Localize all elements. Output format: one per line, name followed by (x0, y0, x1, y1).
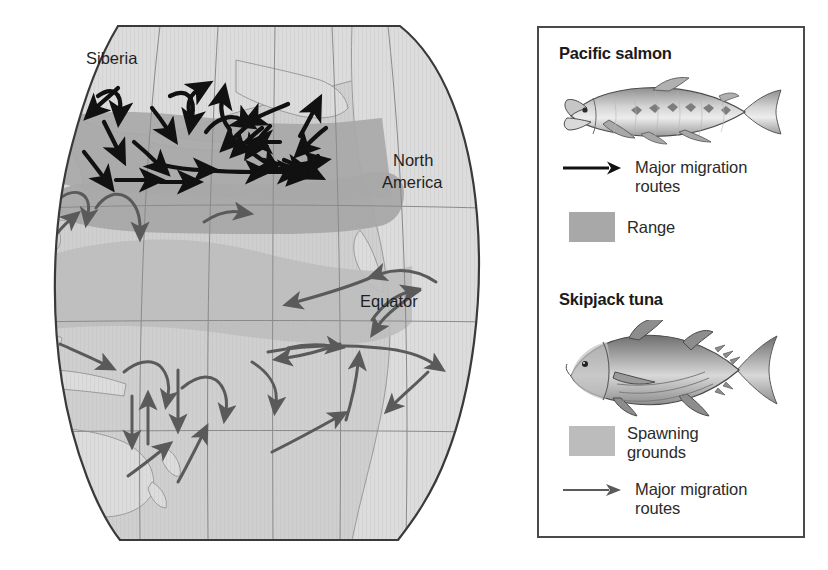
pacific-migration-map: Siberia North America Equator (0, 0, 530, 570)
legend-entry-salmon-routes: Major migration routes (561, 158, 747, 196)
legend-label-tuna-routes-l1: Major migration (635, 480, 747, 499)
label-north: North (393, 151, 433, 169)
legend-label-salmon-range: Range (627, 218, 675, 237)
skipjack-tuna-illustration (559, 320, 789, 420)
legend-label-tuna-routes: Major migration routes (635, 480, 747, 518)
legend-title-skipjack-tuna: Skipjack tuna (559, 290, 663, 309)
label-siberia: Siberia (86, 49, 138, 67)
legend-label-tuna-routes-l2: routes (635, 499, 747, 518)
label-equator: Equator (360, 292, 418, 310)
legend-label-tuna-spawning-l2: grounds (627, 443, 699, 462)
legend-entry-tuna-spawning: Spawning grounds (569, 424, 699, 462)
legend-label-salmon-routes-l1: Major migration (635, 158, 747, 177)
legend-label-salmon-routes: Major migration routes (635, 158, 747, 196)
legend-label-tuna-spawning: Spawning grounds (627, 424, 699, 462)
salmon-range-swatch (569, 212, 615, 242)
legend-panel: Pacific salmon (537, 26, 805, 538)
legend-label-tuna-spawning-l1: Spawning (627, 424, 699, 443)
tuna-spawning-swatch (569, 426, 615, 456)
legend-title-pacific-salmon: Pacific salmon (559, 44, 672, 63)
map-svg: Siberia North America Equator (0, 0, 530, 570)
map-body (0, 0, 530, 570)
legend-entry-salmon-range: Range (569, 212, 675, 242)
salmon-route-arrow-icon (561, 158, 623, 182)
figure-root: Siberia North America Equator Pacific sa… (0, 0, 828, 570)
salmon-range-region-north (46, 112, 392, 201)
legend-entry-tuna-routes: Major migration routes (561, 480, 747, 518)
label-america: America (382, 173, 443, 191)
legend-label-salmon-routes-l2: routes (635, 177, 747, 196)
tuna-route-arrow-icon (561, 480, 623, 504)
pacific-salmon-illustration (557, 76, 787, 148)
